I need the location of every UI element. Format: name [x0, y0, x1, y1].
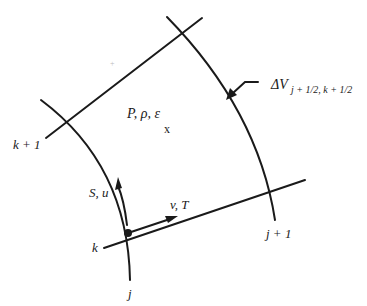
vector-v-t-shaft — [131, 219, 170, 232]
cell-center-marker: x — [164, 122, 170, 136]
volume-label-prefix: ΔV — [270, 77, 289, 92]
label-v-t: v, T — [170, 197, 189, 212]
arrow-v-t-icon — [165, 216, 178, 223]
node-point — [124, 229, 132, 237]
label-k-plus-1: k + 1 — [13, 137, 41, 152]
label-j-plus-1: j + 1 — [264, 226, 291, 241]
volume-leader-line — [233, 82, 258, 93]
label-s-u: S, u — [89, 185, 109, 200]
volume-label: ΔV j + 1/2, k + 1/2 — [270, 77, 352, 95]
label-j: j — [126, 286, 132, 301]
volume-label-subscript: j + 1/2, k + 1/2 — [289, 84, 352, 95]
cell-variables-label: P, ρ, ε — [126, 106, 160, 121]
label-k: k — [92, 240, 98, 255]
faint-mark: + — [110, 59, 115, 68]
grid-line-k-plus-1 — [46, 18, 202, 138]
grid-line-j — [41, 100, 130, 280]
mesh-cell-diagram: + k + 1 k j j + 1 P, ρ, ε x S, u v, T ΔV… — [0, 0, 367, 306]
grid-line-j-plus-1 — [167, 17, 275, 220]
arrow-s-u-icon — [115, 177, 122, 190]
